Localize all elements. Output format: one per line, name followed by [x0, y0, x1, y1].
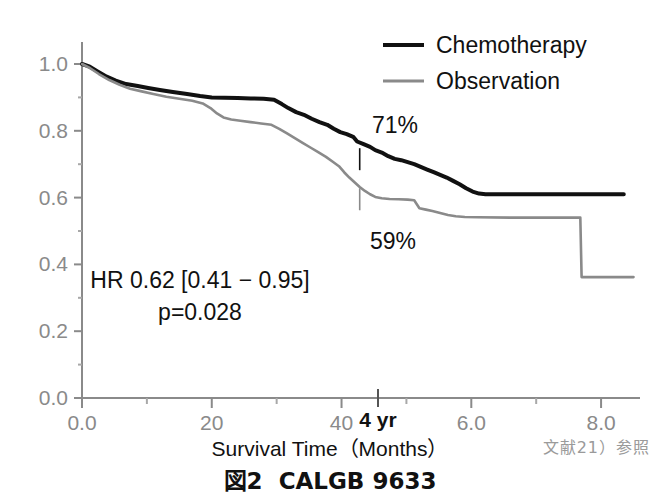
chemotherapy-percent-annotation: 71% — [372, 112, 418, 138]
y-tick-label-1: 0.2 — [39, 319, 68, 342]
legend-label-observation: Observation — [436, 68, 560, 94]
y-tick-label-3: 0.6 — [39, 186, 68, 209]
reference-note: 文献21）参照 — [543, 434, 650, 458]
x-tick-label-1: 20 — [200, 411, 223, 434]
series-layer — [82, 64, 634, 277]
x-tick-label-0: 0.0 — [67, 411, 96, 434]
x-tick-label-2: 40 — [330, 411, 353, 434]
y-tick-label-0: 0.0 — [39, 386, 68, 409]
y-tick-layer: 0.00.20.40.60.81.0 — [39, 52, 82, 409]
figure-caption-number: 図2 — [224, 468, 263, 494]
x-tick-layer: 0.020406.08.0 — [67, 398, 615, 434]
kaplan-meier-chart: 0.00.20.40.60.81.0 0.020406.08.0 4 yr Ch… — [0, 0, 660, 500]
x-tick-label-3: 6.0 — [457, 411, 486, 434]
x-tick-label-4: 8.0 — [586, 411, 615, 434]
observation-percent-annotation: 59% — [370, 228, 416, 254]
y-tick-label-5: 1.0 — [39, 52, 68, 75]
four-year-label: 4 yr — [359, 408, 396, 431]
y-tick-label-4: 0.8 — [39, 119, 68, 142]
hazard-ratio-annotation: HR 0.62 [0.41 − 0.95] — [90, 267, 309, 293]
legend-label-chemotherapy: Chemotherapy — [436, 32, 587, 58]
four-year-marker-group: 4 yr — [359, 389, 396, 431]
series-line-observation — [82, 64, 634, 277]
figure-caption: 図2CALGB 9633 — [0, 462, 660, 496]
y-tick-label-2: 0.4 — [39, 252, 69, 275]
survival-figure: 0.00.20.40.60.81.0 0.020406.08.0 4 yr Ch… — [0, 0, 660, 500]
legend: Chemotherapy Observation — [383, 32, 587, 94]
p-value-annotation: p=0.028 — [158, 299, 242, 325]
figure-caption-title: CALGB 9633 — [279, 468, 437, 494]
x-axis-title: Survival Time（Months） — [212, 437, 449, 460]
